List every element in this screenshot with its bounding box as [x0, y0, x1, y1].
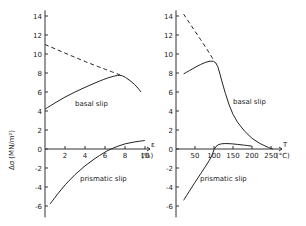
left-panel: -6-4-202468101214246810ε(%)basal slippri…: [33, 10, 155, 217]
y-tick-label: 2: [169, 127, 173, 135]
curve-annotation: prismatic slip: [200, 175, 247, 183]
x-axis-symbol: ε: [151, 141, 155, 149]
y-tick-label: -6: [35, 203, 43, 211]
y-tick-label: 0: [38, 146, 42, 154]
y-tick-label: -4: [166, 184, 174, 192]
y-tick-label: 0: [169, 146, 173, 154]
y-tick-label: 8: [169, 70, 173, 78]
y-tick-label: 6: [38, 89, 43, 97]
curve-annotation: basal slip: [233, 98, 266, 106]
basal-slip-extrapolated-curve: [184, 14, 214, 61]
curve-annotation: prismatic slip: [80, 175, 127, 183]
y-axis-label: Δσ (MN/m²): [8, 130, 16, 170]
figure: Δσ (MN/m²) -6-4-202468101214246810ε(%)ba…: [0, 0, 306, 226]
y-tick-label: 2: [38, 127, 42, 135]
x-axis-unit: (%): [141, 152, 153, 160]
y-tick-label: -4: [35, 184, 43, 192]
x-tick-label: 200: [245, 152, 258, 160]
y-tick-label: 6: [169, 89, 174, 97]
svg-text:Δσ (MN/m²): Δσ (MN/m²): [8, 130, 16, 170]
y-tick-label: 10: [164, 51, 173, 59]
y-tick-label: 4: [38, 108, 43, 116]
right-panel: -6-4-20246810121450100150200250T(°C)basa…: [164, 10, 290, 217]
curve-annotation: basal slip: [75, 100, 108, 108]
y-tick-label: 14: [164, 13, 173, 21]
prismatic-slip-curve: [50, 140, 145, 204]
x-tick-label: 8: [123, 152, 127, 160]
y-tick-label: 14: [33, 13, 42, 21]
y-tick-label: -2: [35, 165, 42, 173]
x-axis-unit: (°C): [276, 152, 290, 160]
y-tick-label: 8: [38, 70, 42, 78]
x-tick-label: 150: [226, 152, 239, 160]
x-tick-label: 50: [191, 152, 200, 160]
y-tick-label: -2: [166, 165, 173, 173]
x-tick-label: 100: [207, 152, 220, 160]
y-tick-label: 4: [169, 108, 174, 116]
y-tick-label: -6: [166, 203, 174, 211]
basal-slip-extrapolated-curve: [45, 45, 120, 75]
y-tick-label: 12: [33, 32, 42, 40]
y-tick-label: 10: [33, 51, 42, 59]
x-axis-symbol: T: [282, 141, 288, 149]
y-tick-label: 12: [164, 32, 173, 40]
x-tick-label: 4: [83, 152, 88, 160]
x-tick-label: 2: [63, 152, 67, 160]
